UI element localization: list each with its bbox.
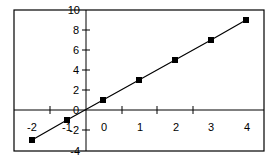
y-label-6: 6 [73,44,79,56]
y-label-8: 8 [73,24,79,36]
chart-svg: 10 8 6 4 2 0 -2 -4 -2 -1 0 1 2 3 4 [0,0,280,161]
x-label-0: 0 [101,121,107,133]
x-label-neg1: -1 [62,121,72,133]
x-label-1: 1 [137,121,143,133]
y-label-2: 2 [73,84,79,96]
y-label-0: 0 [73,104,79,116]
y-label-4: 4 [73,64,79,76]
x-label-neg2: -2 [27,121,37,133]
x-label-3: 3 [208,121,214,133]
y-label-neg4: -4 [70,145,80,157]
x-label-2: 2 [173,121,179,133]
y-label-10: 10 [68,4,80,16]
x-label-4: 4 [244,121,250,133]
